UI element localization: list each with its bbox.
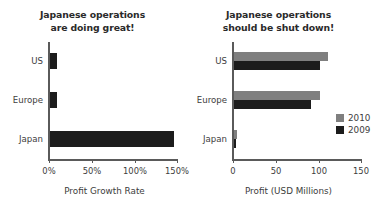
- bar-right-us-2010: [234, 52, 328, 61]
- legend-item-2009[interactable]: 2009: [336, 124, 370, 136]
- plot-area-right: 0 50 100 150 US Europe Japan 2010: [232, 42, 361, 159]
- chart-title-right: Japanese operations should be shut down!: [186, 8, 371, 34]
- x-tick-left-50: [92, 159, 93, 163]
- chart-title-left: Japanese operations are doing great!: [0, 8, 185, 34]
- x-ticklabel-right-100: 100: [311, 166, 327, 176]
- x-tick-right-100: [319, 159, 320, 163]
- x-ticklabel-left-100: 100%: [123, 166, 147, 176]
- chart-title-left-line2: are doing great!: [0, 21, 185, 34]
- x-tick-left-100: [135, 159, 136, 163]
- chart-panel-profit-growth-rate: Japanese operations are doing great! 0% …: [0, 0, 185, 211]
- chart-title-right-line2: should be shut down!: [186, 21, 371, 34]
- chart-panel-profit-usd-millions: Japanese operations should be shut down!…: [186, 0, 371, 211]
- x-ticklabel-left-50: 50%: [83, 166, 102, 176]
- bar-left-us: [50, 53, 57, 69]
- x-tick-right-50: [276, 159, 277, 163]
- legend-swatch-2009: [336, 126, 344, 134]
- legend-right: 2010 2009: [336, 112, 370, 136]
- bar-right-japan-2009: [234, 139, 236, 148]
- x-tick-left-0: [49, 159, 50, 163]
- x-axis-right: [232, 159, 361, 161]
- chart-title-right-line1: Japanese operations: [186, 8, 371, 21]
- legend-item-2010[interactable]: 2010: [336, 112, 370, 124]
- x-ticklabel-left-0: 0%: [42, 166, 55, 176]
- figure: Japanese operations are doing great! 0% …: [0, 0, 371, 211]
- x-axis-label-right: Profit (USD Millions): [186, 186, 371, 196]
- legend-label-2009: 2009: [348, 126, 370, 135]
- bar-right-japan-2010: [234, 130, 237, 139]
- y-ticklabel-right-us: US: [215, 56, 227, 66]
- y-ticklabel-left-europe: Europe: [13, 95, 43, 105]
- x-axis-label-left: Profit Growth Rate: [0, 186, 185, 196]
- y-ticklabel-left-japan: Japan: [19, 134, 43, 144]
- y-ticklabel-right-japan: Japan: [203, 134, 227, 144]
- bar-right-us-2009: [234, 61, 320, 70]
- chart-title-left-line1: Japanese operations: [0, 8, 185, 21]
- legend-label-2010: 2010: [348, 114, 370, 123]
- x-ticklabel-right-0: 0: [230, 166, 235, 176]
- plot-area-left: 0% 50% 100% 150% US Europe Japan: [48, 42, 177, 159]
- bar-left-japan: [50, 131, 174, 147]
- bar-right-europe-2009: [234, 100, 311, 109]
- y-ticklabel-left-us: US: [31, 56, 43, 66]
- x-tick-left-150: [177, 159, 178, 163]
- bar-right-europe-2010: [234, 91, 320, 100]
- x-tick-right-0: [233, 159, 234, 163]
- x-ticklabel-right-150: 150: [353, 166, 369, 176]
- y-ticklabel-right-europe: Europe: [197, 95, 227, 105]
- x-axis-left: [48, 159, 177, 161]
- x-tick-right-150: [361, 159, 362, 163]
- bar-left-europe: [50, 92, 57, 108]
- legend-swatch-2010: [336, 114, 344, 122]
- x-ticklabel-right-50: 50: [271, 166, 282, 176]
